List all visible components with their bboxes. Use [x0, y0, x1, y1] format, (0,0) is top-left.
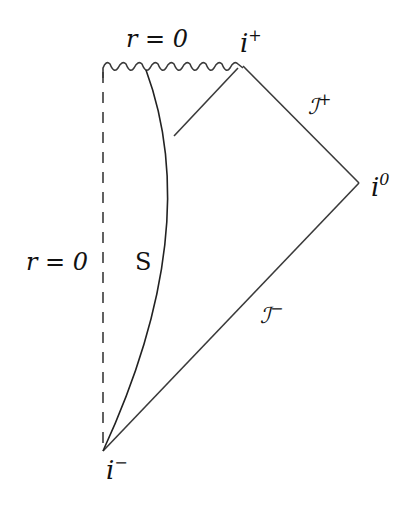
- label-axis-r0: r = 0: [26, 248, 88, 276]
- label-i-zero: i0: [371, 170, 390, 202]
- label-i-plus: i+: [240, 26, 262, 58]
- label-scri-plus: ℐ+: [308, 90, 331, 119]
- singularity-wavy-line: [103, 63, 243, 78]
- label-singularity-r0: r = 0: [126, 25, 188, 53]
- label-region-s: S: [135, 248, 151, 276]
- label-scri-minus: ℐ−: [260, 299, 283, 328]
- label-i-minus: i−: [106, 453, 128, 485]
- event-horizon-line: [174, 68, 238, 136]
- future-null-infinity-line: [243, 66, 359, 183]
- penrose-diagram: r = 0 i+ ℐ+ i0 r = 0 S ℐ− i−: [0, 0, 416, 509]
- past-null-infinity-line: [103, 183, 359, 451]
